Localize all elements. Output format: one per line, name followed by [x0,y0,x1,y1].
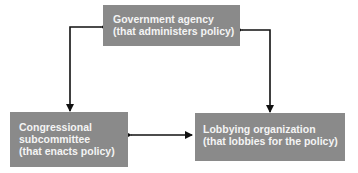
node-subtitle: (that lobbies for the policy) [203,135,345,147]
node-title-2: subcommittee [19,133,128,145]
node-title: Congressional [19,121,128,133]
arrow-gov-congress [70,27,101,111]
node-title: Lobbying organization [203,123,345,135]
lobbying-organization-box: Lobbying organization (that lobbies for … [195,113,345,161]
node-subtitle: (that administers policy) [113,25,240,37]
node-subtitle: (that enacts policy) [19,145,128,157]
government-agency-box: Government agency (that administers poli… [103,5,240,46]
arrow-gov-lobby [242,30,270,112]
congressional-subcommittee-box: Congressional subcommittee (that enacts … [10,112,128,167]
node-title: Government agency [113,13,240,25]
